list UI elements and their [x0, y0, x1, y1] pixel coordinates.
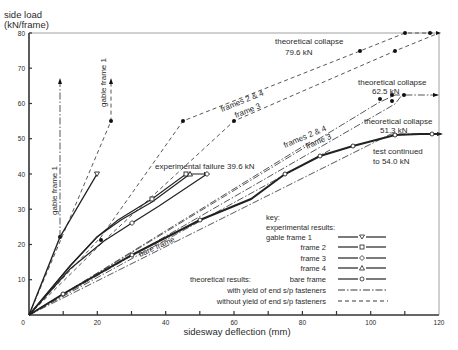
- svg-text:theoretical collapse: theoretical collapse: [364, 117, 433, 126]
- svg-text:51.3 kN: 51.3 kN: [380, 126, 408, 135]
- plot-frame: [29, 33, 439, 315]
- svg-text:20: 20: [18, 241, 26, 248]
- svg-text:gable frame 1: gable frame 1: [99, 58, 108, 107]
- x-tick-labels: 0 20 40 60 80 100 120: [21, 319, 445, 326]
- svg-text:key:: key:: [266, 213, 280, 222]
- square-marker: [150, 197, 154, 201]
- y-tick-labels: 10 20 30 40 50 60 70 80: [18, 30, 26, 284]
- svg-text:theoretical results:: theoretical results:: [190, 275, 251, 284]
- frame-3-theory-without-yield: [29, 33, 439, 315]
- svg-text:70: 70: [18, 65, 26, 72]
- svg-text:bare frame: bare frame: [137, 235, 177, 259]
- svg-text:without yield of end s/p faste: without yield of end s/p fasteners: [216, 297, 326, 306]
- svg-text:to 54.0 kN: to 54.0 kN: [373, 157, 410, 166]
- svg-text:40: 40: [162, 319, 170, 326]
- svg-text:bare frame: bare frame: [290, 275, 326, 284]
- circle-marker: [61, 292, 65, 296]
- svg-text:62.5 kN: 62.5 kN: [372, 87, 400, 96]
- svg-text:theoretical collapse: theoretical collapse: [275, 37, 344, 46]
- theoretical-without-yield-lines: [29, 33, 439, 315]
- legend: key: experimental results: gable frame 1…: [190, 213, 335, 306]
- svg-text:100: 100: [365, 319, 376, 326]
- svg-text:with yield of end s/p fastener: with yield of end s/p fasteners: [226, 286, 326, 295]
- svg-text:0: 0: [21, 319, 25, 326]
- svg-text:80: 80: [18, 30, 26, 37]
- svg-text:40: 40: [18, 171, 26, 178]
- svg-text:theoretical collapse: theoretical collapse: [358, 78, 427, 87]
- svg-text:120: 120: [434, 319, 445, 326]
- frames-2-4-theory-without-yield: [29, 33, 439, 315]
- svg-text:test continued: test continued: [373, 147, 423, 156]
- svg-text:79.6 kN: 79.6 kN: [285, 48, 313, 57]
- svg-text:80: 80: [299, 319, 307, 326]
- y-axis-title-line2: (kN/frame): [4, 19, 49, 30]
- load-deflection-chart: 10 20 30 40 50 60 70 80 0 20 40 60 80 10…: [0, 0, 458, 350]
- svg-text:10: 10: [18, 276, 26, 283]
- svg-text:frame 2: frame 2: [301, 243, 326, 252]
- svg-text:gable frame 1: gable frame 1: [50, 166, 59, 215]
- svg-text:gable frame 1: gable frame 1: [266, 233, 312, 242]
- svg-text:50: 50: [18, 135, 26, 142]
- svg-text:frame 4: frame 4: [301, 264, 326, 273]
- svg-text:experimental results:: experimental results:: [266, 223, 335, 232]
- svg-text:30: 30: [18, 206, 26, 213]
- svg-text:frame 3: frame 3: [301, 254, 326, 263]
- legend-swatches: [338, 235, 388, 301]
- theory-markers: [58, 31, 432, 242]
- svg-text:60: 60: [18, 100, 26, 107]
- svg-text:60: 60: [230, 319, 238, 326]
- x-axis-title: sidesway deflection (mm): [183, 326, 290, 337]
- svg-text:experimental failure 39.6 kN: experimental failure 39.6 kN: [155, 162, 255, 171]
- svg-text:20: 20: [94, 319, 102, 326]
- chart-annotations: theoretical collapse 79.6 kN theoretical…: [50, 37, 433, 259]
